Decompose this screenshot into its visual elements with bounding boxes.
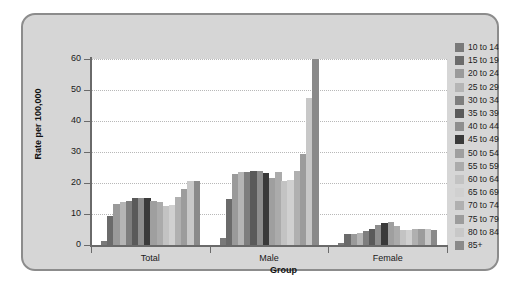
legend-item-label: 70 to 74 [468, 201, 499, 210]
legend-item[interactable]: 40 to 44 [455, 120, 517, 133]
legend-swatch-icon [455, 96, 464, 105]
x-axis-category-label: Female [328, 253, 447, 263]
y-axis-tick-label: 50 [71, 84, 81, 94]
x-axis-tick [210, 246, 211, 253]
legend-item[interactable]: 20 to 24 [455, 67, 517, 80]
legend-swatch-icon [455, 122, 464, 131]
legend-item[interactable]: 35 to 39 [455, 107, 517, 120]
legend-item-label: 15 to 19 [468, 56, 499, 65]
legend-item-label: 45 to 49 [468, 135, 499, 144]
bar [312, 59, 319, 245]
legend-item-label: 20 to 24 [468, 69, 499, 78]
legend-item[interactable]: 75 to 79 [455, 212, 517, 225]
legend-item-label: 40 to 44 [468, 122, 499, 131]
x-axis-tick [91, 246, 92, 253]
legend-item-label: 50 to 54 [468, 149, 499, 158]
y-axis-tick-label: 20 [71, 177, 81, 187]
legend-item-label: 80 to 84 [468, 228, 499, 237]
legend-swatch-icon [455, 228, 464, 237]
legend: 10 to 1415 to 1920 to 2425 to 2930 to 34… [455, 41, 517, 252]
legend-item-label: 75 to 79 [468, 215, 499, 224]
y-axis-tick-label: 0 [76, 239, 81, 249]
legend-item[interactable]: 30 to 34 [455, 94, 517, 107]
legend-item[interactable]: 10 to 14 [455, 41, 517, 54]
legend-item[interactable]: 85+ [455, 239, 517, 252]
legend-item[interactable]: 15 to 19 [455, 54, 517, 67]
y-axis-tick-label: 10 [71, 208, 81, 218]
legend-item[interactable]: 70 to 74 [455, 199, 517, 212]
legend-item-label: 85+ [468, 241, 482, 250]
y-axis-tick-label: 40 [71, 115, 81, 125]
legend-item-label: 30 to 34 [468, 96, 499, 105]
bar-group [101, 59, 200, 245]
x-axis-title: Group [23, 265, 521, 275]
legend-item-label: 10 to 14 [468, 43, 499, 52]
y-axis-tick-label: 60 [71, 53, 81, 63]
legend-item[interactable]: 50 to 54 [455, 147, 517, 160]
legend-item[interactable]: 25 to 29 [455, 81, 517, 94]
legend-swatch-icon [455, 56, 464, 65]
legend-swatch-icon [455, 215, 464, 224]
legend-item-label: 25 to 29 [468, 83, 499, 92]
x-axis-category-label: Total [91, 253, 210, 263]
chart-screenshot: Rate per 100,000 0102030405060 TotalMale… [0, 0, 521, 291]
bar-group [338, 59, 437, 245]
legend-item[interactable]: 65 to 69 [455, 186, 517, 199]
y-axis-tick-label: 30 [71, 146, 81, 156]
chart-panel: Rate per 100,000 0102030405060 TotalMale… [21, 13, 499, 271]
bar [431, 230, 438, 245]
x-axis-line [90, 245, 448, 247]
y-axis-title: Rate per 100,000 [33, 80, 43, 168]
legend-item-label: 55 to 59 [468, 162, 499, 171]
x-axis-category-label: Male [210, 253, 329, 263]
legend-swatch-icon [455, 109, 464, 118]
legend-swatch-icon [455, 135, 464, 144]
legend-swatch-icon [455, 149, 464, 158]
legend-swatch-icon [455, 175, 464, 184]
legend-item[interactable]: 60 to 64 [455, 173, 517, 186]
legend-item-label: 60 to 64 [468, 175, 499, 184]
bar [194, 181, 201, 245]
plot-area [91, 59, 447, 245]
legend-item[interactable]: 80 to 84 [455, 226, 517, 239]
legend-swatch-icon [455, 241, 464, 250]
legend-swatch-icon [455, 201, 464, 210]
y-axis-line [90, 57, 92, 247]
x-axis-tick [447, 246, 448, 253]
legend-swatch-icon [455, 83, 464, 92]
legend-item-label: 65 to 69 [468, 188, 499, 197]
legend-swatch-icon [455, 188, 464, 197]
y-axis-tick-labels: 0102030405060 [47, 15, 81, 269]
legend-swatch-icon [455, 162, 464, 171]
legend-item-label: 35 to 39 [468, 109, 499, 118]
legend-item[interactable]: 45 to 49 [455, 133, 517, 146]
bar-group [220, 59, 319, 245]
legend-item[interactable]: 55 to 59 [455, 160, 517, 173]
legend-swatch-icon [455, 69, 464, 78]
legend-swatch-icon [455, 43, 464, 52]
x-axis-tick [328, 246, 329, 253]
